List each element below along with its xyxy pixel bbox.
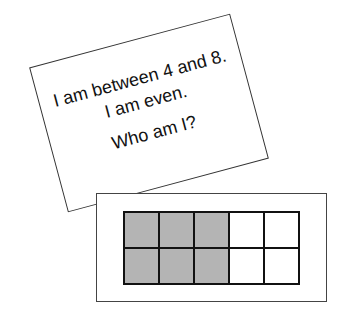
ten-frame-cell-empty xyxy=(229,212,264,248)
ten-frame-cell-empty xyxy=(264,248,299,284)
ten-frame-cell-filled xyxy=(194,212,229,248)
ten-frame-cell-empty xyxy=(264,212,299,248)
ten-frame-card xyxy=(96,193,327,302)
riddle-card: I am between 4 and 8. I am even. Who am … xyxy=(29,14,269,213)
ten-frame-cell-filled xyxy=(124,248,159,284)
ten-frame-cell-filled xyxy=(159,248,194,284)
ten-frame-cell-filled xyxy=(194,248,229,284)
ten-frame-cell-filled xyxy=(124,212,159,248)
ten-frame-cell-empty xyxy=(229,248,264,284)
ten-frame-cell-filled xyxy=(159,212,194,248)
ten-frame-grid xyxy=(123,211,300,285)
